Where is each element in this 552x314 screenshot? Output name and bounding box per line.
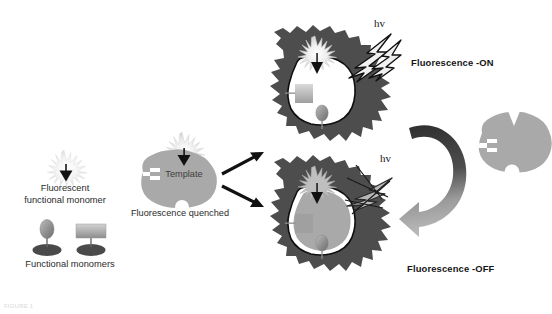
legend-fluorescent-monomer-line1: Fluorescent — [41, 183, 90, 193]
hv-label-top: hv — [374, 17, 385, 29]
figure-root: Fluorescent functional monomer Functiona… — [0, 0, 552, 314]
square-monomer-icon — [76, 224, 106, 256]
arrow-to-fluorescence-off — [222, 186, 264, 207]
legend-functional-monomers-icon — [33, 220, 107, 257]
fluorescence-on-label: Fluorescence -ON — [411, 57, 494, 68]
legend-fluorescent-monomer-line2: functional monomer — [24, 195, 106, 205]
curved-rebinding-arrow-icon — [399, 125, 466, 237]
oval-monomer-icon — [33, 220, 62, 257]
arrow-to-fluorescence-on — [222, 152, 264, 174]
free-template-blob-icon — [479, 111, 552, 180]
fluorescence-quenched-label: Fluorescence quenched — [121, 208, 239, 218]
polymer-fluorescence-on — [270, 25, 401, 141]
hv-label-bottom: hv — [380, 152, 391, 164]
template-label: Template — [155, 169, 213, 179]
figure-caption-faint: FIGURE 1 — [4, 303, 33, 309]
polymer-fluorescence-off — [270, 155, 392, 271]
legend-functional-monomers-label: Functional monomers — [10, 258, 130, 270]
legend-fluorescent-monomer-label: Fluorescent functional monomer — [17, 182, 113, 206]
fluorescence-off-label: Fluorescence -OFF — [407, 263, 494, 274]
